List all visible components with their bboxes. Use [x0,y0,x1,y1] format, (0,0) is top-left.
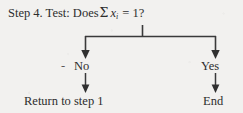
return-to-step-1-label: Return to step 1 [24,95,104,108]
yes-outcome-arrowhead [212,85,220,94]
no-branch-label: No [74,60,89,73]
no-branch-dash-mark: - [61,60,65,73]
no-branch-arrowhead [81,50,89,59]
flowchart-figure: Step 4. Test: DoesΣxi= 1? - No Yes Retur… [0,0,243,113]
yes-branch-label: Yes [201,60,219,73]
yes-branch-arrowhead [211,50,219,59]
end-label: End [203,95,223,108]
no-outcome-arrowhead [82,85,90,94]
